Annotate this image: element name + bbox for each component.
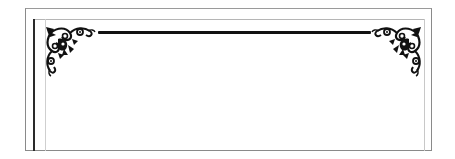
top-decorative-rule xyxy=(98,31,371,34)
inner-frame-left-dark-line xyxy=(33,19,35,151)
floral-corner-icon-top-right xyxy=(371,25,423,77)
inner-frame-right-line xyxy=(424,19,425,151)
floral-corner-icon xyxy=(44,25,96,77)
inner-frame-top-line xyxy=(33,19,425,20)
floral-corner-icon xyxy=(371,25,423,77)
floral-corner-icon-top-left xyxy=(44,25,96,77)
